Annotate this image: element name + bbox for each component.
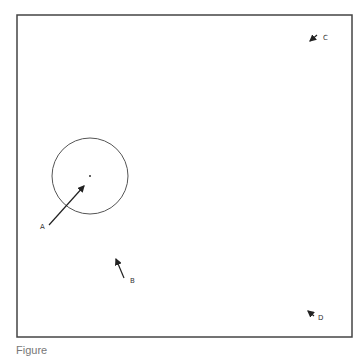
- caption: Figure: [16, 344, 47, 356]
- marker-group: ABCD: [40, 34, 328, 322]
- arrow-icon: [310, 35, 317, 41]
- circle-center-dot: [89, 175, 91, 177]
- arrow-icon: [116, 259, 124, 278]
- marker-label-b: B: [130, 277, 135, 285]
- arrow-icon: [308, 311, 314, 316]
- marker-label-d: D: [318, 314, 323, 322]
- arrow-icon: [49, 186, 84, 225]
- marker-label-c: C: [323, 34, 328, 42]
- figure-frame: [17, 15, 352, 337]
- marker-label-a: A: [40, 223, 45, 231]
